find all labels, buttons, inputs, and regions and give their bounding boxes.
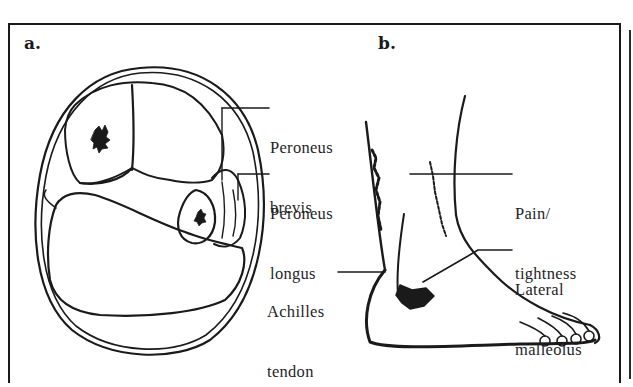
callout-line: Peroneus: [270, 138, 333, 158]
callout-line: malleolus: [515, 340, 582, 360]
callout-line: Pain/: [515, 204, 576, 224]
callout-lateral-malleolus: Lateral malleolus: [515, 240, 582, 380]
leg-cross-section-illustration: [35, 67, 263, 354]
callout-line: tendon: [267, 362, 324, 382]
callout-line: Lateral: [515, 280, 582, 300]
callout-line: Peroneus: [270, 204, 333, 224]
callout-line: Achilles: [267, 302, 324, 322]
callout-achilles-tendon: Achilles tendon: [267, 262, 324, 387]
